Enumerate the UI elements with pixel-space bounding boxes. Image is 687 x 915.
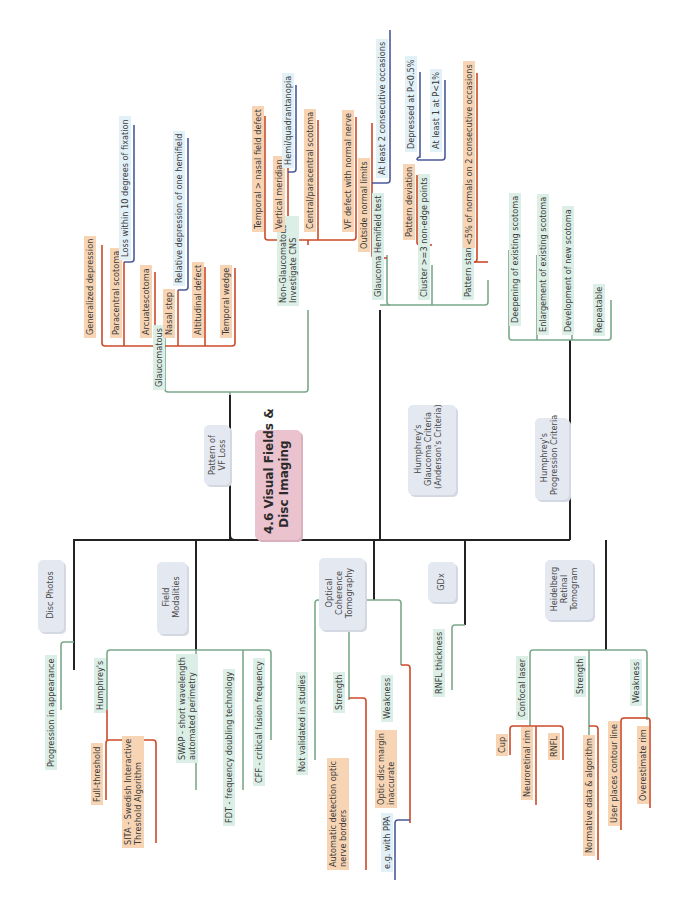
node-relative-depression-hemifield[interactable]: Relative depression of one hemifield [173, 131, 185, 286]
topic-optical-coherence-tomography[interactable]: Optical Coherence Tomography [319, 558, 365, 630]
node-nasal-step[interactable]: Nasal step [163, 289, 175, 338]
node-generalized-depression[interactable]: Generalized depression [84, 236, 96, 338]
topic-gdx[interactable]: GDx [428, 562, 456, 602]
node-paracentral-scotoma[interactable]: Paracentral scotoma [110, 248, 122, 338]
topic-pattern-of-vf-loss[interactable]: Pattern of VF Loss [204, 425, 230, 485]
topic-heidelberg-retinal-tomogram[interactable]: Heidelberg Retinal Tomogram [545, 560, 593, 620]
node-temporal-wedge[interactable]: Temporal wedge [220, 265, 232, 338]
node-cluster-non-edge-points[interactable]: Cluster >=3 non-edge points [418, 174, 430, 300]
mind-map-canvas: 4.6 Visual Fields & Disc Imaging Pattern… [0, 0, 687, 915]
node-automatic-detection[interactable]: Automatic detection optic nerve borders [327, 758, 349, 870]
node-temporal-nasal-field-defect[interactable]: Temporal > nasal field defect [252, 106, 264, 232]
node-outside-normal-limits[interactable]: Outside normal limits [358, 158, 370, 252]
node-rnfl-thickness[interactable]: RNFL thickness [433, 629, 445, 697]
node-central-paracentral-scotoma[interactable]: Central/paracentral scotoma [304, 109, 316, 232]
node-hemi-quadrantanopia[interactable]: Hemi/quadrantanopia [282, 73, 294, 168]
node-oct-weakness[interactable]: Weakness [381, 675, 393, 722]
node-neuroretinal-rim[interactable]: Neuroretinal rim [521, 727, 533, 800]
node-rnfl[interactable]: RNFL [548, 733, 560, 760]
topic-humphreys-glaucoma-criteria[interactable]: Humphrey's Glaucoma Criteria (Anderson's… [408, 405, 456, 495]
node-oct-strength[interactable]: Strength [333, 672, 345, 713]
node-humphreys[interactable]: Humphrey's [94, 658, 106, 713]
node-development-new-scotoma[interactable]: Development of new scotoma [562, 206, 574, 335]
node-altitudinal-defect[interactable]: Altitudinal defect [192, 262, 204, 338]
node-optic-disc-margin[interactable]: Optic disc margin inaccurate [375, 730, 397, 808]
node-overestimate-rim[interactable]: Overestimate rim [637, 726, 649, 804]
topic-disc-photos[interactable]: Disc Photos [38, 560, 64, 632]
node-at-least-1-p1[interactable]: At least 1 at P<1% [430, 69, 442, 152]
node-enlargement-scotoma[interactable]: Enlargement of existing scotoma [537, 194, 549, 335]
node-eg-with-ppa[interactable]: e.g. with PPA [381, 813, 393, 872]
node-fdt[interactable]: FDT - frequency doubling technology [223, 669, 235, 826]
node-not-validated[interactable]: Not validated in studies [296, 672, 308, 775]
root-title: 4.6 Visual Fields & Disc Imaging [262, 434, 292, 534]
node-glaucoma-hemifield-test[interactable]: Glaucoma Hemifield test [372, 193, 384, 300]
node-confocal-laser[interactable]: Confocal laser [516, 656, 528, 720]
node-cup[interactable]: Cup [496, 734, 508, 756]
node-at-least-2-consecutive[interactable]: At least 2 consecutive occasions [376, 39, 388, 178]
topic-field-modalities[interactable]: Field Modalities [157, 562, 187, 634]
node-hrt-strength[interactable]: Strength [574, 656, 586, 697]
node-depressed-p05[interactable]: Depressed at P<0.5% [405, 56, 417, 152]
node-progression-in-appearance[interactable]: Progression in appearance [45, 655, 57, 770]
root-topic[interactable]: 4.6 Visual Fields & Disc Imaging [255, 430, 301, 540]
node-sita[interactable]: SITA - Swedish Interactive Threshold Alg… [122, 736, 144, 848]
node-full-threshold[interactable]: Full-threshold [91, 743, 103, 805]
node-pattern-deviation[interactable]: Pattern deviation [403, 164, 415, 240]
node-psd-5-percent[interactable]: <5% of normals on 2 consecutive occasion… [463, 61, 475, 248]
node-arcuate-scotoma[interactable]: Arcuatescotoma [140, 265, 152, 338]
topic-humphreys-progression-criteria[interactable]: Humphrey's Progression Criteria [535, 418, 569, 500]
node-loss-within-10-degrees[interactable]: Loss within 10 degrees of fixation [119, 116, 131, 260]
node-cff[interactable]: CFF - critical fusion frequency [253, 658, 265, 786]
node-user-places-contour[interactable]: User places contour line [608, 721, 620, 826]
node-hrt-weakness[interactable]: Weakness [630, 659, 642, 706]
node-deepening-scotoma[interactable]: Deepening of existing scotoma [509, 193, 521, 326]
node-swap[interactable]: SWAP - short wavelength automated perime… [176, 654, 198, 763]
node-normative-data[interactable]: Normative data & algorithm [583, 735, 595, 856]
node-vf-defect-normal-nerve[interactable]: VF defect with normal nerve [342, 110, 354, 232]
node-repeatable[interactable]: Repeatable [593, 284, 605, 336]
